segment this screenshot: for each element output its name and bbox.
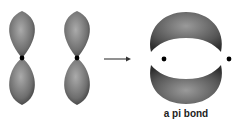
pi-lobe-bottom [150,65,222,104]
nucleus-dot [162,57,167,62]
right-arrow-icon [104,57,131,62]
pi-lobe-top [150,12,222,52]
pi-bond-caption: a pi bond [164,108,208,119]
p-orbital-right [64,11,90,105]
nucleus-dot [227,57,232,62]
orbital-lobe-top [9,11,35,58]
pi-bond-diagram [0,0,248,131]
orbital-lobe-top [64,11,90,58]
orbital-lobe-bottom [64,58,90,105]
p-orbital-left [9,11,35,105]
orbital-lobe-bottom [9,58,35,105]
nucleus-dot [20,56,25,61]
pi-bond-orbital [150,12,231,104]
nucleus-dot [75,56,80,61]
